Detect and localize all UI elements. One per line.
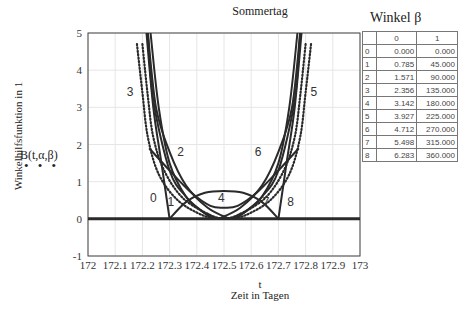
table-cell: 5.498 [376,136,416,149]
y-tick-label: 1 [77,176,83,188]
row-index: 3 [363,84,377,97]
table-cell: 0.000 [376,45,416,58]
table-cell: 3.927 [376,110,416,123]
row-index: 6 [363,123,377,136]
curve-6b [229,33,297,219]
angle-table: 0100.0000.00010.78545.00021.57190.00032.… [362,31,458,162]
x-tick-label: 172.5 [212,259,237,271]
table-row: 53.927225.000 [363,110,458,123]
table-cell: 2.356 [376,84,416,97]
y-tick-label: 3 [77,101,83,113]
table-row: 10.78545.000 [363,58,458,71]
x-tick-label: 172.8 [293,259,318,271]
table-cell: 1.571 [376,71,416,84]
table-row: 00.0000.000 [363,45,458,58]
table-cell: 3.142 [376,97,416,110]
x-tick-label: 172 [80,259,97,271]
table-cell: 90.000 [417,71,458,84]
curve-label: 4 [218,191,225,205]
row-index: 0 [363,45,377,58]
x-tick-label: 172.4 [184,259,209,271]
table-row: 86.283360.000 [363,149,458,162]
x-tick-label: 172.2 [130,259,155,271]
x-tick-label: 172.3 [157,259,182,271]
table-cell: 0.000 [417,45,458,58]
curve-label: 3 [127,85,134,99]
table-cell: 180.000 [417,97,458,110]
table-cell: 225.000 [417,110,458,123]
table-cell: 360.000 [417,149,458,162]
curve-7 [235,33,300,219]
y-tick-label: 4 [77,64,83,76]
x-tick-label: 172.1 [103,259,128,271]
y-tick-label: 0 [77,213,83,225]
x-tick-label: 172.9 [320,259,345,271]
table-row: 75.498315.000 [363,136,458,149]
row-index: 2 [363,71,377,84]
table-cell: 4.712 [376,123,416,136]
table-cell: 315.000 [417,136,458,149]
row-index: 4 [363,97,377,110]
table-row: 43.142180.000 [363,97,458,110]
table-row: 64.712270.000 [363,123,458,136]
y-tick-label: -1 [73,250,82,262]
y-tick-label: 2 [77,139,83,151]
table-row: 32.356135.000 [363,84,458,97]
y-tick-label: 5 [77,27,83,39]
row-index: 5 [363,110,377,123]
table-header: 0 [376,32,416,45]
curve-1 [148,33,213,219]
curve-label: 0 [150,191,157,205]
table-cell: 45.000 [417,58,458,71]
row-index: 1 [363,58,377,71]
table-title: Winkel β [370,10,421,26]
x-tick-label: 173 [352,259,369,271]
row-index: 7 [363,136,377,149]
curve-label: 5 [310,85,317,99]
curve-label: 8 [287,195,294,209]
curve-label: 2 [177,145,184,159]
curve-2b [151,33,219,219]
table-cell: 270.000 [417,123,458,136]
table-row: 21.57190.000 [363,71,458,84]
curve-label: 7 [263,195,270,209]
table-cell: 135.000 [417,84,458,97]
curve-label: 6 [255,145,262,159]
table-cell: 6.283 [376,149,416,162]
table-header: 1 [417,32,458,45]
x-tick-label: 172.7 [266,259,291,271]
table-cell: 0.785 [376,58,416,71]
x-tick-label: 172.6 [239,259,264,271]
table-header [363,32,377,45]
row-index: 8 [363,149,377,162]
